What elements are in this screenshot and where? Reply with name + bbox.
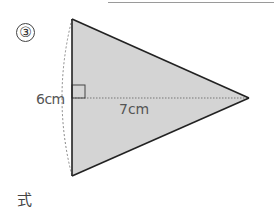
base-label: 7cm — [119, 101, 149, 117]
formula-label: 式 — [17, 188, 32, 209]
height-label: 6cm — [36, 91, 65, 107]
